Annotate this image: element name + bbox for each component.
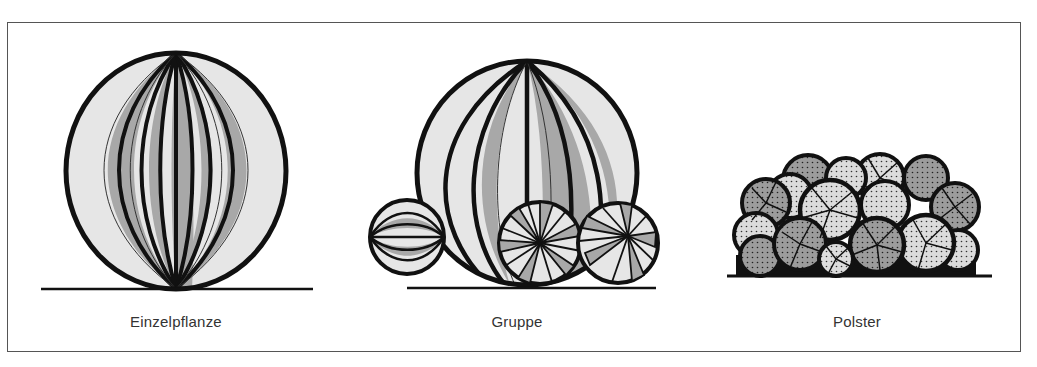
group-radial-sphere-left — [499, 202, 581, 284]
cushion-cluster — [734, 154, 979, 276]
label-polster: Polster — [833, 313, 881, 330]
label-gruppe: Gruppe — [491, 313, 542, 330]
single-plant-sphere — [66, 53, 286, 289]
group-small-sphere — [370, 200, 444, 274]
group-radial-sphere-right — [578, 203, 658, 283]
label-einzelpflanze: Einzelpflanze — [130, 313, 222, 330]
growth-forms-illustration — [0, 0, 1037, 367]
